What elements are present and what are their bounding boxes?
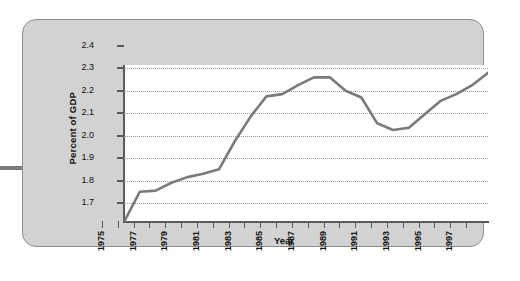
- x-axis-tick: [197, 221, 198, 228]
- x-axis-tick: [450, 221, 451, 228]
- x-axis-tick: [181, 221, 182, 228]
- x-axis-tick: [387, 221, 388, 228]
- x-axis-tick: [403, 221, 404, 228]
- y-axis-tick: [117, 67, 124, 69]
- y-axis-tick: [117, 112, 124, 114]
- x-axis-tick: [292, 221, 293, 228]
- x-axis-tick: [324, 221, 325, 228]
- x-axis-tick: [244, 221, 245, 228]
- y-axis-tick-label: 2.3: [64, 63, 94, 72]
- y-axis-title: Percent of GDP: [67, 92, 78, 164]
- x-axis-tick: [466, 221, 467, 228]
- y-axis-tick-label: 1.7: [64, 198, 94, 207]
- y-axis-tick: [117, 45, 124, 47]
- y-axis-tick-label: 1.8: [64, 176, 94, 185]
- x-axis-tick: [371, 221, 372, 228]
- chart-screenshot: 2.42.32.22.12.01.91.81.7 197519771979198…: [0, 0, 520, 281]
- chart-panel: 2.42.32.22.12.01.91.81.7 197519771979198…: [22, 19, 484, 247]
- x-axis-tick: [134, 221, 135, 228]
- x-axis-tick: [308, 221, 309, 228]
- x-axis-tick: [419, 221, 420, 228]
- y-axis-tick: [117, 180, 124, 182]
- x-axis-tick: [165, 221, 166, 228]
- y-axis-tick: [117, 90, 124, 92]
- x-axis-title-wrap: Year: [0, 235, 520, 246]
- x-axis-tick: [434, 221, 435, 228]
- x-axis-tick: [118, 221, 119, 228]
- y-axis-tick-label: 2.4: [64, 41, 94, 50]
- data-series-line: [124, 65, 488, 222]
- y-axis-tick: [117, 202, 124, 204]
- x-axis-tick: [229, 221, 230, 228]
- x-axis-tick: [276, 221, 277, 228]
- x-axis-tick: [102, 221, 103, 228]
- x-axis-tick: [213, 221, 214, 228]
- x-axis-tick: [355, 221, 356, 228]
- x-axis-tick: [149, 221, 150, 228]
- y-axis-tick: [117, 135, 124, 137]
- x-axis-tick: [339, 221, 340, 228]
- y-axis-tick: [117, 157, 124, 159]
- x-axis-title: Year: [274, 235, 294, 246]
- x-axis-tick: [260, 221, 261, 228]
